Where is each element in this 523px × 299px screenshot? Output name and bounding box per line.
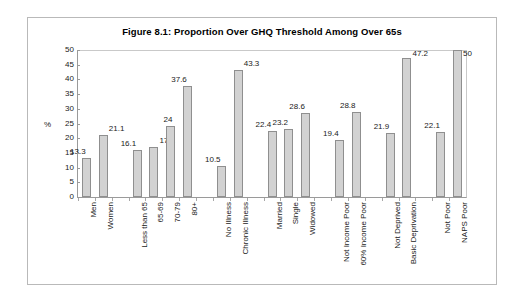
bar-value-label: 13.3 — [70, 148, 86, 156]
x-tick-mark — [179, 198, 180, 201]
x-tick-mark — [78, 198, 79, 201]
x-axis-label: NAPS Poor — [461, 202, 469, 243]
bar — [82, 158, 91, 197]
x-axis-label: Women — [107, 202, 115, 229]
bar — [217, 166, 226, 197]
bar-value-label: 43.3 — [244, 60, 260, 68]
y-tick-mark — [77, 65, 80, 66]
y-tick-mark — [77, 153, 80, 154]
bar-value-label: 10.5 — [205, 156, 221, 164]
y-tick-mark — [77, 79, 80, 80]
bar — [301, 113, 310, 197]
x-axis-label: Not Deprived — [394, 202, 402, 249]
bar — [133, 150, 142, 197]
x-axis-label: Basic Deprivation — [410, 202, 418, 264]
x-tick-mark — [129, 198, 130, 201]
x-axis-label: Widowed — [309, 202, 317, 235]
y-tick-label: 10 — [58, 164, 74, 172]
x-tick-mark — [230, 198, 231, 201]
bar — [335, 140, 344, 197]
y-tick-label: 0 — [58, 193, 74, 201]
y-tick-mark — [77, 109, 80, 110]
y-tick-mark — [77, 138, 80, 139]
x-tick-mark — [247, 198, 248, 201]
figure-title: Figure 8.1: Proportion Over GHQ Threshol… — [28, 26, 496, 37]
x-tick-mark — [365, 198, 366, 201]
bar-value-label: 24 — [164, 116, 173, 124]
bar-value-label: 47.2 — [412, 50, 428, 58]
x-tick-mark — [449, 198, 450, 201]
bar — [284, 129, 293, 197]
y-tick-label: 45 — [58, 61, 74, 69]
y-tick-mark — [77, 168, 80, 169]
x-axis-tick-labels: MenWomenLess than 6565-6970-7980+No Illn… — [78, 202, 466, 282]
x-axis-label: No Illness — [225, 202, 233, 237]
x-axis-label: 70-79 — [174, 202, 182, 222]
figure-screenshot: Figure 8.1: Proportion Over GHQ Threshol… — [0, 0, 523, 299]
bar — [268, 131, 277, 197]
x-tick-mark — [314, 198, 315, 201]
bars-layer: 13.321.116.117.12437.610.543.322.423.228… — [78, 50, 466, 197]
y-tick-mark — [77, 124, 80, 125]
x-axis-label: 65-69 — [157, 202, 165, 222]
y-tick-label: 25 — [58, 120, 74, 128]
bar-value-label: 28.6 — [289, 103, 305, 111]
bar-value-label: 50 — [463, 50, 472, 58]
y-tick-label: 35 — [58, 90, 74, 98]
bar-value-label: 16.1 — [121, 140, 137, 148]
bar — [166, 126, 175, 197]
bar-value-label: 28.8 — [340, 102, 356, 110]
y-axis-tick-labels: 05101520253035404550 — [56, 50, 74, 198]
bar — [453, 50, 462, 197]
bar — [352, 112, 361, 197]
x-tick-mark — [348, 198, 349, 201]
y-tick-label: 30 — [58, 105, 74, 113]
bar-value-label: 37.6 — [171, 76, 187, 84]
x-tick-mark — [382, 198, 383, 201]
x-axis-label: 60% Income Poor — [360, 202, 368, 266]
x-axis-label: Chronic Illness — [242, 202, 250, 254]
x-axis-label: 80+ — [191, 202, 199, 216]
x-tick-mark — [280, 198, 281, 201]
bar-value-label: 23.2 — [272, 119, 288, 127]
bar — [149, 147, 158, 197]
y-tick-label: 50 — [58, 46, 74, 54]
y-tick-mark — [77, 50, 80, 51]
x-axis-label: Not Poor — [444, 202, 452, 234]
bar — [234, 70, 243, 197]
x-tick-mark — [95, 198, 96, 201]
x-axis-label: Married — [276, 202, 284, 229]
x-axis-label: Single — [292, 202, 300, 224]
x-tick-mark — [145, 198, 146, 201]
x-tick-mark — [213, 198, 214, 201]
y-tick-mark — [77, 182, 80, 183]
y-tick-label: 20 — [58, 134, 74, 142]
bar — [183, 86, 192, 197]
x-tick-mark — [162, 198, 163, 201]
x-tick-mark — [297, 198, 298, 201]
x-tick-mark — [432, 198, 433, 201]
x-tick-mark — [112, 198, 113, 201]
y-tick-label: 5 — [58, 178, 74, 186]
y-axis-title: % — [44, 120, 51, 129]
y-tick-mark — [77, 94, 80, 95]
bar-value-label: 22.1 — [424, 122, 440, 130]
bar — [436, 132, 445, 197]
x-tick-mark — [331, 198, 332, 201]
x-axis-label: Not Income Poor — [343, 202, 351, 262]
bar-value-label: 21.9 — [374, 123, 390, 131]
bar — [386, 133, 395, 197]
x-axis-label: Less than 65 — [141, 202, 149, 248]
x-tick-mark — [399, 198, 400, 201]
bar-value-label: 22.4 — [256, 121, 272, 129]
x-axis-label: Men — [90, 202, 98, 218]
x-tick-mark — [264, 198, 265, 201]
x-tick-mark — [196, 198, 197, 201]
bar-value-label: 21.1 — [109, 125, 125, 133]
bar — [99, 135, 108, 197]
y-tick-label: 40 — [58, 75, 74, 83]
bar — [402, 58, 411, 197]
bar-value-label: 19.4 — [323, 130, 339, 138]
x-tick-mark — [415, 198, 416, 201]
